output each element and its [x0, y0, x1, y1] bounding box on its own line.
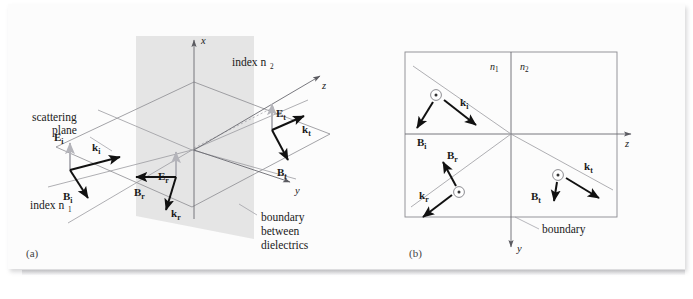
- vector-k-i: [70, 157, 120, 170]
- vector-label-k-t: kt: [302, 123, 311, 138]
- n1-label: n1: [490, 61, 499, 74]
- x-axis-label: x: [200, 35, 206, 46]
- index-n1-label: index n 1: [30, 199, 72, 214]
- panel-b: z y ki Bi Br kr: [355, 4, 685, 269]
- vector-B-t: [272, 130, 288, 160]
- vector-k-t: [566, 178, 599, 198]
- E-t-out-of-page-dot: [557, 174, 560, 177]
- card-drop-shadow: [22, 270, 685, 275]
- vector-label-k-i: ki: [460, 96, 469, 111]
- scattering-plane-label-line1: scattering: [32, 111, 77, 124]
- boundary-label: boundary: [542, 223, 586, 236]
- vector-B-i: [70, 170, 88, 198]
- y-axis-label: y: [516, 243, 522, 254]
- boundary-label-line2: between: [261, 225, 300, 237]
- transmitted-ray-line: [511, 134, 613, 190]
- vector-B-i: [417, 102, 433, 128]
- E-r-out-of-page-dot: [458, 191, 461, 194]
- z-axis-label: z: [624, 138, 629, 149]
- scattering-plane-label-line2: plane: [52, 124, 77, 137]
- panel-b-label: (b): [409, 247, 422, 260]
- panel-a: x y z Ei ki Bi Er Br kr: [8, 4, 355, 269]
- vector-label-k-t: kt: [584, 160, 593, 175]
- panel-a-label: (a): [26, 247, 39, 260]
- boundary-label-line3: dielectrics: [261, 239, 309, 251]
- vector-label-B-i: Bi: [417, 136, 427, 151]
- vector-label-B-r: Br: [447, 149, 458, 164]
- n2-label: n2: [520, 61, 529, 74]
- vector-label-k-r: kr: [419, 189, 429, 204]
- vector-label-B-t: Bt: [531, 190, 541, 205]
- vector-B-t: [554, 182, 557, 201]
- boundary-leader: [515, 217, 539, 229]
- y-axis-label: y: [294, 185, 300, 196]
- vector-label-E-t: Et: [276, 107, 286, 122]
- E-i-out-of-page-dot: [435, 94, 438, 97]
- z-axis-label: z: [321, 80, 326, 91]
- boundary-label-line1: boundary: [261, 211, 305, 224]
- figure-root: x y z Ei ki Bi Er Br kr: [0, 0, 693, 299]
